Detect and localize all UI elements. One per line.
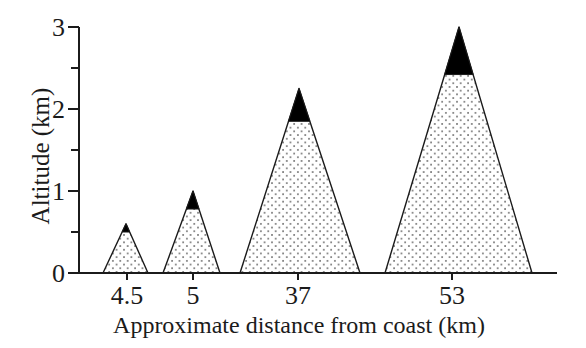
mountain-2-snow-cap <box>186 191 199 209</box>
mountain-altitude-figure: 4.5537533210 Altitude (km) Approximate d… <box>0 0 586 348</box>
mountain-3-snow-cap <box>289 89 310 122</box>
x-tick-label-37: 37 <box>285 281 311 310</box>
x-axis-title: Approximate distance from coast (km) <box>113 312 485 338</box>
y-tick-label-0: 0 <box>52 259 65 288</box>
mountains-layer <box>103 27 532 273</box>
x-tick-label-5: 5 <box>187 281 200 310</box>
y-tick-label-3: 3 <box>52 13 65 42</box>
x-tick-label-4.5: 4.5 <box>111 281 144 310</box>
mountain-profile-chart: 4.5537533210 Altitude (km) Approximate d… <box>0 0 586 348</box>
x-tick-label-53: 53 <box>439 281 465 310</box>
mountain-4-snow-cap <box>445 27 473 75</box>
y-axis-title: Altitude (km) <box>27 88 55 225</box>
